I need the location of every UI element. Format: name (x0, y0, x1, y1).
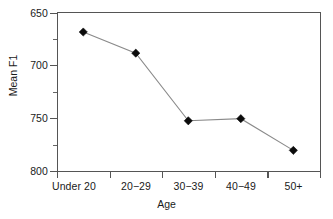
data-point-marker (79, 28, 87, 36)
series-line-mean-f1 (83, 32, 293, 150)
line-chart-figure: 650 700 750 800 Mean F1 Under 20 20−29 3… (0, 0, 333, 219)
series-layer (0, 0, 333, 219)
series-markers (79, 28, 297, 155)
clipped-caption (0, 209, 333, 219)
data-point-marker (289, 146, 297, 154)
data-point-marker (237, 115, 245, 123)
